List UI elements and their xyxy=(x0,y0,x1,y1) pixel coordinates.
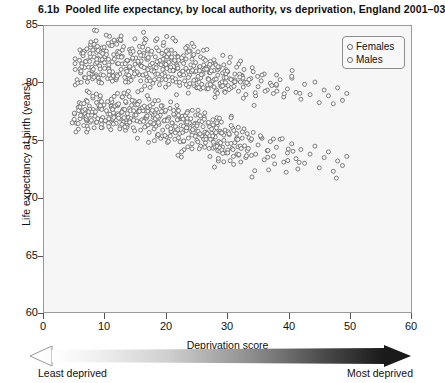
data-point xyxy=(186,136,190,140)
legend-item-males[interactable]: Males xyxy=(347,53,404,66)
data-point xyxy=(120,95,124,99)
data-point xyxy=(146,123,150,127)
data-point xyxy=(169,127,173,131)
chart-legend: Females Males xyxy=(342,36,405,69)
data-point xyxy=(125,58,129,62)
data-point xyxy=(92,126,96,130)
y-axis-title: Life expectancy at birth (years) xyxy=(20,54,32,254)
data-point xyxy=(241,96,245,100)
data-point xyxy=(116,62,120,66)
data-point xyxy=(297,160,301,164)
data-point xyxy=(220,131,224,135)
data-point xyxy=(98,94,102,98)
data-point xyxy=(184,57,188,61)
data-point xyxy=(245,154,249,158)
x-tick-label-60: 60 xyxy=(396,320,426,332)
data-point xyxy=(78,105,82,109)
data-point xyxy=(274,145,278,149)
data-point xyxy=(95,29,99,33)
data-point xyxy=(119,67,123,71)
data-point xyxy=(177,109,181,113)
data-point xyxy=(133,129,137,133)
data-point xyxy=(123,80,127,84)
data-point xyxy=(79,113,83,117)
data-point xyxy=(88,51,92,55)
data-point xyxy=(282,160,286,164)
data-point xyxy=(184,66,188,70)
data-point xyxy=(90,110,94,114)
data-point xyxy=(166,139,170,143)
data-point xyxy=(291,149,295,153)
x-tick-label-40: 40 xyxy=(274,320,304,332)
data-point xyxy=(211,134,215,138)
data-point xyxy=(260,73,264,77)
data-point xyxy=(135,136,139,140)
data-point xyxy=(251,70,255,74)
data-point xyxy=(215,121,219,125)
data-point xyxy=(285,151,289,155)
x-tick-label-20: 20 xyxy=(151,320,181,332)
x-tick-label-30: 30 xyxy=(212,320,242,332)
x-tickmark-10 xyxy=(104,313,105,319)
legend-item-females[interactable]: Females xyxy=(347,40,404,53)
data-point xyxy=(286,158,290,162)
data-point xyxy=(176,66,180,70)
data-point xyxy=(186,91,190,95)
data-point xyxy=(106,100,110,104)
data-point xyxy=(198,132,202,136)
data-point xyxy=(81,51,85,55)
data-point xyxy=(190,133,194,137)
data-point xyxy=(198,69,202,73)
data-point xyxy=(96,49,100,53)
data-point xyxy=(169,55,173,59)
data-point xyxy=(228,55,232,59)
data-point xyxy=(82,102,86,106)
data-point xyxy=(89,118,93,122)
data-point xyxy=(294,157,298,161)
data-point xyxy=(227,61,231,65)
data-point xyxy=(252,103,256,107)
data-point xyxy=(155,37,159,41)
data-point xyxy=(146,56,150,60)
data-point xyxy=(275,73,279,77)
data-point xyxy=(98,67,102,71)
data-point xyxy=(211,118,215,122)
data-point xyxy=(107,73,111,77)
data-point xyxy=(231,148,235,152)
data-point xyxy=(214,77,218,81)
data-point xyxy=(98,104,102,108)
data-point xyxy=(259,79,263,83)
data-point xyxy=(155,108,159,112)
data-point xyxy=(206,120,210,124)
data-point xyxy=(176,113,180,117)
data-point xyxy=(303,161,307,165)
arrow-shaft xyxy=(52,348,384,364)
scatter-series-males xyxy=(70,89,349,180)
most-deprived-label: Most deprived xyxy=(347,367,413,379)
data-point xyxy=(156,72,160,76)
data-point xyxy=(185,111,189,115)
data-point xyxy=(266,148,270,152)
data-point xyxy=(168,134,172,138)
data-point xyxy=(317,101,321,105)
data-point xyxy=(239,160,243,164)
arrow-svg xyxy=(28,344,413,368)
data-point xyxy=(207,146,211,150)
data-point xyxy=(70,121,74,125)
data-point xyxy=(83,76,87,80)
data-point xyxy=(182,139,186,143)
data-point xyxy=(188,82,192,86)
data-point xyxy=(153,55,157,59)
x-tickmark-40 xyxy=(289,313,290,319)
data-point xyxy=(173,59,177,63)
title-number: 6.1b xyxy=(38,3,59,15)
data-point xyxy=(267,168,271,172)
data-point xyxy=(308,152,312,156)
data-point xyxy=(80,65,84,69)
data-point xyxy=(219,120,223,124)
data-point xyxy=(146,68,150,72)
data-point xyxy=(156,114,160,118)
data-point xyxy=(208,62,212,66)
data-point xyxy=(133,72,137,76)
data-point xyxy=(239,59,243,63)
